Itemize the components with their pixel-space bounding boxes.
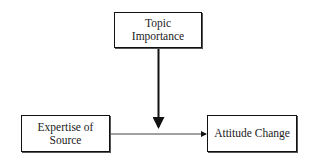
expertise-of-source-box: Expertise of Source: [21, 115, 110, 152]
topic-importance-line2: Importance: [132, 30, 184, 43]
expertise-line1: Expertise of: [38, 121, 94, 134]
attitude-change-label: Attitude Change: [214, 127, 290, 140]
topic-importance-box: Topic Importance: [114, 12, 202, 48]
topic-importance-line1: Topic: [145, 17, 171, 30]
attitude-change-box: Attitude Change: [207, 115, 297, 152]
expertise-line2: Source: [50, 134, 82, 147]
